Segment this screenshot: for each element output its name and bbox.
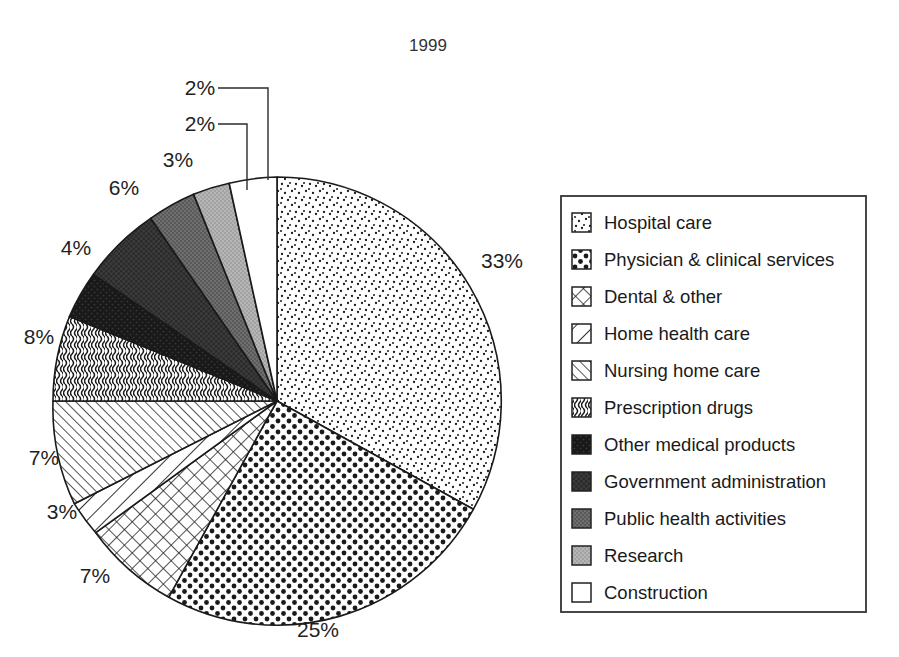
pie-label-2-research: 2% (185, 112, 215, 135)
leader-lines (218, 88, 268, 190)
legend-label: Other medical products (604, 434, 795, 455)
legend-label: Hospital care (604, 212, 712, 233)
pie-label-3-public-health: 3% (163, 148, 193, 171)
pie-label-25: 25% (297, 618, 339, 641)
pie-label-4-other-medical: 4% (61, 236, 91, 259)
legend-item-research[interactable]: Research (572, 545, 683, 566)
pie-slices (53, 177, 501, 625)
legend-label: Prescription drugs (604, 397, 753, 418)
figure-canvas: 1999 (0, 0, 899, 657)
pie-label-7-nursing: 7% (29, 446, 59, 469)
chart-title: 1999 (409, 36, 447, 55)
leader-line-construction (218, 88, 268, 180)
legend-item-other-medical-products[interactable]: Other medical products (572, 434, 795, 455)
pie-label-7-dental: 7% (80, 564, 110, 587)
legend-label: Research (604, 545, 683, 566)
legend: Hospital care Physician & clinical servi… (561, 196, 866, 612)
pie-label-2-construction: 2% (185, 76, 215, 99)
legend-item-government-administration[interactable]: Government administration (572, 471, 826, 492)
pie-label-3-home-health: 3% (47, 500, 77, 523)
legend-label: Physician & clinical services (604, 249, 834, 270)
pie-label-6-government: 6% (109, 176, 139, 199)
legend-label: Dental & other (604, 286, 722, 307)
legend-label: Home health care (604, 323, 750, 344)
legend-item-public-health-activities[interactable]: Public health activities (572, 508, 786, 529)
legend-item-physician-clinical-services[interactable]: Physician & clinical services (572, 249, 834, 270)
pie-chart-figure: 1999 (0, 0, 899, 657)
pie-label-8-prescription: 8% (24, 325, 54, 348)
pie-label-33: 33% (481, 249, 523, 272)
legend-label: Nursing home care (604, 360, 760, 381)
legend-label: Government administration (604, 471, 826, 492)
legend-label: Public health activities (604, 508, 786, 529)
legend-label: Construction (604, 582, 708, 603)
